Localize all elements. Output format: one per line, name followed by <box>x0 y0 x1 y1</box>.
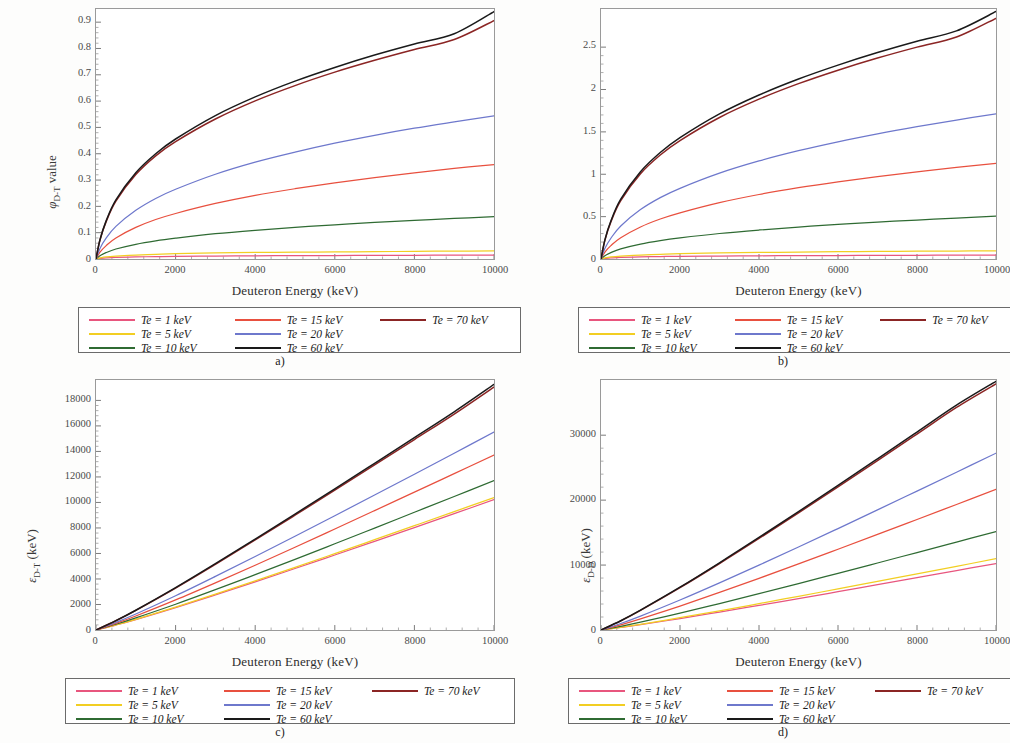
legend-item[interactable]: Te = 1 keV <box>76 684 210 697</box>
legend-item[interactable]: Te = 10 keV <box>589 341 721 354</box>
legend-item[interactable]: Te = 70 keV <box>372 684 506 697</box>
panel-b-caption: b) <box>753 354 813 369</box>
panel-c-caption: c) <box>250 725 310 740</box>
series-line <box>96 116 494 259</box>
legend-color-swatch <box>579 718 625 720</box>
y-tick-label: 4000 <box>33 573 91 584</box>
legend-label: Te = 60 keV <box>779 713 835 725</box>
panel-d: εD-D (keV) Deuteron Energy (keV) Te = 1 … <box>508 371 1010 743</box>
legend-item[interactable]: Te = 5 keV <box>89 327 221 340</box>
legend-item[interactable]: Te = 20 keV <box>727 698 861 711</box>
legend-label: Te = 60 keV <box>787 342 843 354</box>
legend-label: Te = 5 keV <box>631 699 681 711</box>
x-tick-label: 4000 <box>734 635 784 646</box>
panel-c-legend-grid: Te = 1 keVTe = 15 keVTe = 70 keVTe = 5 k… <box>76 684 506 725</box>
x-tick-label: 2000 <box>150 264 200 275</box>
legend-item[interactable]: Te = 5 keV <box>579 698 713 711</box>
legend-item[interactable]: Te = 1 keV <box>89 313 221 326</box>
legend-label: Te = 70 keV <box>432 314 488 326</box>
legend-item[interactable]: Te = 60 keV <box>727 712 861 725</box>
series-line <box>601 255 996 259</box>
legend-label: Te = 70 keV <box>932 314 988 326</box>
x-tick-label: 6000 <box>813 264 863 275</box>
legend-label: Te = 20 keV <box>287 328 343 340</box>
series-line <box>601 453 996 630</box>
legend-item[interactable]: Te = 15 keV <box>235 313 367 326</box>
legend-item[interactable]: Te = 10 keV <box>76 712 210 725</box>
series-line <box>96 387 494 630</box>
legend-color-swatch <box>579 704 625 706</box>
x-tick-label: 0 <box>575 264 625 275</box>
panel-b-curves <box>601 9 996 259</box>
series-line <box>601 532 996 630</box>
x-tick-label: 8000 <box>390 635 440 646</box>
panel-b-legend-grid: Te = 1 keVTe = 15 keVTe = 70 keVTe = 5 k… <box>589 313 1010 354</box>
legend-item[interactable]: Te = 70 keV <box>880 313 1010 326</box>
series-line <box>601 559 996 630</box>
legend-item[interactable]: Te = 20 keV <box>224 698 358 711</box>
panel-a-xlabel: Deuteron Energy (keV) <box>95 283 495 299</box>
legend-color-swatch <box>76 718 122 720</box>
legend-color-swatch <box>579 690 625 692</box>
legend-color-swatch <box>727 690 773 692</box>
legend-color-swatch <box>589 333 635 335</box>
legend-label: Te = 1 keV <box>631 685 681 697</box>
panel-d-ticks <box>601 435 996 630</box>
legend-item[interactable]: Te = 60 keV <box>235 341 367 354</box>
legend-item[interactable]: Te = 5 keV <box>589 327 721 340</box>
x-tick-label: 4000 <box>230 264 280 275</box>
legend-color-swatch <box>589 319 635 321</box>
legend-item[interactable]: Te = 20 keV <box>235 327 367 340</box>
y-tick-label: 0.6 <box>33 94 91 105</box>
panel-d-legend: Te = 1 keVTe = 15 keVTe = 70 keVTe = 5 k… <box>568 678 1010 724</box>
series-line <box>601 12 996 259</box>
series-line <box>601 381 996 630</box>
legend-label: Te = 1 keV <box>141 314 191 326</box>
x-tick-label: 2000 <box>654 635 704 646</box>
legend-color-swatch <box>89 347 135 349</box>
legend-item[interactable]: Te = 70 keV <box>380 313 512 326</box>
legend-label: Te = 15 keV <box>276 685 332 697</box>
panel-b: φD-D value Deuteron Energy (keV) Te = 1 … <box>508 0 1010 372</box>
series-line <box>96 165 494 259</box>
legend-label: Te = 15 keV <box>287 314 343 326</box>
panel-d-curves <box>601 380 996 630</box>
y-tick-label: 0.4 <box>33 147 91 158</box>
legend-item[interactable]: Te = 20 keV <box>735 327 867 340</box>
legend-item[interactable]: Te = 15 keV <box>735 313 867 326</box>
panel-d-caption: d) <box>753 725 813 740</box>
legend-color-swatch <box>727 718 773 720</box>
x-tick-label: 8000 <box>893 264 943 275</box>
legend-item[interactable]: Te = 10 keV <box>89 341 221 354</box>
legend-label: Te = 10 keV <box>141 342 197 354</box>
y-tick-label: 18000 <box>33 393 91 404</box>
x-tick-label: 4000 <box>230 635 280 646</box>
legend-item[interactable]: Te = 15 keV <box>727 684 861 697</box>
legend-color-swatch <box>224 718 270 720</box>
legend-item[interactable]: Te = 70 keV <box>875 684 1009 697</box>
x-tick-label: 6000 <box>310 264 360 275</box>
legend-item[interactable]: Te = 1 keV <box>579 684 713 697</box>
series-line <box>96 432 494 630</box>
legend-label: Te = 20 keV <box>787 328 843 340</box>
legend-item[interactable]: Te = 5 keV <box>76 698 210 711</box>
x-tick-label: 10000 <box>972 264 1010 275</box>
y-tick-label: 10000 <box>33 495 91 506</box>
panel-a-caption: a) <box>250 354 310 369</box>
legend-item[interactable]: Te = 1 keV <box>589 313 721 326</box>
x-tick-label: 4000 <box>734 264 784 275</box>
legend-item[interactable]: Te = 60 keV <box>735 341 867 354</box>
panel-a-ticks <box>96 22 494 259</box>
y-tick-label: 0 <box>538 253 596 264</box>
legend-color-swatch <box>224 704 270 706</box>
x-tick-label: 6000 <box>310 635 360 646</box>
legend-item[interactable]: Te = 15 keV <box>224 684 358 697</box>
legend-color-swatch <box>89 319 135 321</box>
x-tick-label: 0 <box>70 635 120 646</box>
legend-item[interactable]: Te = 60 keV <box>224 712 358 725</box>
y-tick-label: 10000 <box>538 559 596 570</box>
legend-label: Te = 15 keV <box>787 314 843 326</box>
legend-item[interactable]: Te = 10 keV <box>579 712 713 725</box>
series-line <box>96 384 494 630</box>
panel-a-legend-grid: Te = 1 keVTe = 15 keVTe = 70 keVTe = 5 k… <box>89 313 512 354</box>
